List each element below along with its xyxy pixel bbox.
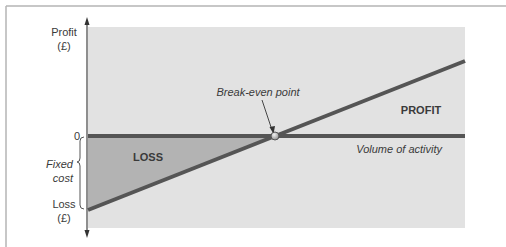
fixed-cost-label-line2: cost	[53, 172, 74, 184]
y-axis-loss-label: Loss	[52, 198, 76, 210]
y-axis-down-arrow-icon	[85, 230, 90, 238]
break-even-chart: Profit (£) 0 Fixed cost Loss (£) LOSS PR…	[0, 0, 506, 247]
fixed-cost-brace-icon	[77, 137, 84, 209]
x-axis-label: Volume of activity	[356, 143, 443, 155]
break-even-point-marker	[271, 132, 279, 140]
loss-region-label: LOSS	[133, 151, 163, 163]
fixed-cost-label-line1: Fixed	[46, 158, 74, 170]
y-axis-zero-label: 0	[74, 130, 80, 142]
y-axis-profit-unit: (£)	[57, 40, 70, 52]
y-axis-up-arrow-icon	[85, 17, 90, 25]
profit-region-label: PROFIT	[401, 104, 442, 116]
y-axis-profit-label: Profit	[51, 26, 77, 38]
plot-background	[88, 27, 465, 228]
y-axis-loss-unit: (£)	[57, 212, 70, 224]
break-even-label: Break-even point	[216, 86, 300, 98]
